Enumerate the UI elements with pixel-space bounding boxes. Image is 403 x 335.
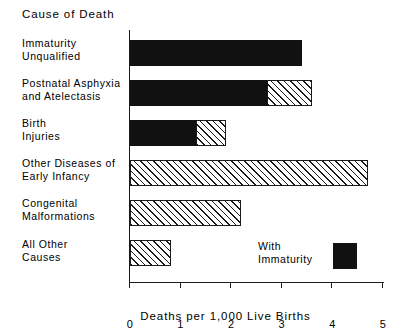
bar-segment-without-immaturity <box>267 80 313 106</box>
category-label-all-other-causes: All Other Causes <box>22 238 68 263</box>
category-label-line2: Unqualified <box>22 50 81 63</box>
bar-segment-without-immaturity <box>130 200 241 226</box>
category-label-line1: All Other <box>22 238 68 250</box>
bar-segment-with-immaturity <box>130 120 196 146</box>
category-label-line1: Birth <box>22 117 46 129</box>
x-axis-line <box>129 282 384 283</box>
legend-entry-with-immaturity-label: With Immaturity <box>258 240 313 265</box>
x-tick-4 <box>331 282 332 288</box>
legend-swatch-with-immaturity <box>333 243 357 269</box>
legend-label-line1: With <box>258 240 281 252</box>
category-label-line2: Injuries <box>22 130 60 143</box>
bar-segment-with-immaturity <box>130 40 302 66</box>
legend-label-line2: Immaturity <box>258 253 313 265</box>
bar-segment-without-immaturity <box>196 120 226 146</box>
x-tick-3 <box>281 282 282 288</box>
category-label-congenital-malformations: Congenital Malformations <box>22 197 95 222</box>
category-label-postnatal-asphyxia-and-atelectasis: Postnatal Asphyxia and Atelectasis <box>22 77 121 102</box>
category-label-line2: Early Infancy <box>22 170 115 183</box>
x-tick-0 <box>129 282 130 288</box>
category-label-line2: Malformations <box>22 210 95 223</box>
category-label-line1: Other Diseases of <box>22 157 115 169</box>
category-label-line2: Causes <box>22 251 68 264</box>
bar-segment-with-immaturity <box>130 80 267 106</box>
bar-chart: Cause of Death Immaturity Unqualified Po… <box>0 0 403 335</box>
legend: With Immaturity <box>258 240 388 270</box>
category-label-birth-injuries: Birth Injuries <box>22 117 60 142</box>
x-axis-title-text: Deaths per 1,000 Live Births <box>92 310 310 322</box>
x-tick-1 <box>180 282 181 288</box>
x-tick-2 <box>230 282 231 288</box>
x-axis-title: Deaths per 1,000 Live Births <box>0 310 403 322</box>
bar-segment-without-immaturity <box>130 160 368 186</box>
category-label-line2: and Atelectasis <box>22 90 121 103</box>
category-label-line1: Immaturity <box>22 37 77 49</box>
bar-segment-without-immaturity <box>130 240 171 266</box>
category-label-line1: Postnatal Asphyxia <box>22 77 121 89</box>
category-label-line1: Congenital <box>22 197 78 209</box>
category-label-immaturity-unqualified: Immaturity Unqualified <box>22 37 81 62</box>
category-label-other-diseases-of-early-infancy: Other Diseases of Early Infancy <box>22 157 115 182</box>
category-column-header: Cause of Death <box>22 8 115 20</box>
x-tick-5 <box>382 282 383 288</box>
